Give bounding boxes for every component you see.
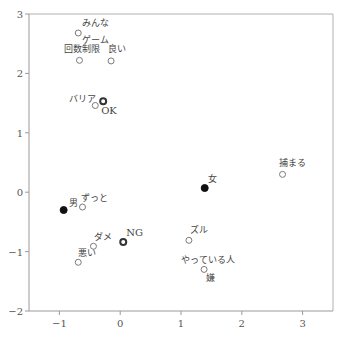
point-label: バリア	[69, 94, 96, 104]
y-tick-label: 1	[17, 128, 23, 139]
x-tick-label: 3	[299, 318, 305, 329]
point-label: ダメ	[94, 231, 112, 242]
point-label: NG	[126, 227, 143, 238]
point-label: ズル	[190, 224, 208, 235]
point-label: 良い	[108, 43, 126, 54]
y-tick-label: 0	[17, 187, 23, 198]
data-points: みんなゲーム回数制限良いバリアOK男ずっとダメ悪いNG女捕まるズルやっている人嫌	[60, 18, 305, 283]
point-marker-filled	[201, 185, 208, 192]
scatter-chart: −10123 −2−10123 みんなゲーム回数制限良いバリアOK男ずっとダメ悪…	[0, 0, 346, 340]
x-tick-label: 2	[239, 318, 245, 329]
point-label: 回数制限	[64, 43, 100, 54]
point-marker-open	[80, 204, 86, 210]
y-tick-label: 3	[17, 9, 23, 20]
x-tick-label: 1	[178, 318, 184, 329]
point-marker-open	[108, 58, 114, 64]
x-tick-label: 0	[117, 318, 123, 329]
point-marker-open	[75, 30, 81, 36]
point-label: 女	[208, 173, 217, 184]
point-marker-open	[75, 259, 81, 265]
point-label: 男	[69, 198, 78, 208]
point-label: 嫌	[206, 272, 215, 283]
point-label: OK	[101, 105, 117, 116]
point-label: やっている人	[181, 255, 235, 265]
point-marker-filled	[60, 207, 67, 214]
y-tick-label: −2	[8, 306, 23, 317]
point-marker-open	[76, 57, 82, 63]
point-marker-bold	[100, 98, 106, 104]
point-label: 捕まる	[279, 157, 306, 168]
point-label: みんな	[82, 18, 109, 28]
x-tick-label: −1	[52, 318, 67, 329]
x-axis: −10123	[52, 311, 306, 329]
point-label: ゲーム	[82, 34, 109, 45]
point-label: ずっと	[81, 193, 108, 203]
y-axis: −2−10123	[8, 9, 29, 317]
y-tick-label: 2	[17, 68, 23, 79]
point-marker-open	[186, 237, 192, 243]
point-marker-open	[201, 266, 207, 272]
point-label: 悪い	[78, 248, 96, 258]
point-marker-bold	[120, 239, 126, 245]
point-marker-open	[280, 171, 286, 177]
y-tick-label: −1	[8, 247, 23, 258]
